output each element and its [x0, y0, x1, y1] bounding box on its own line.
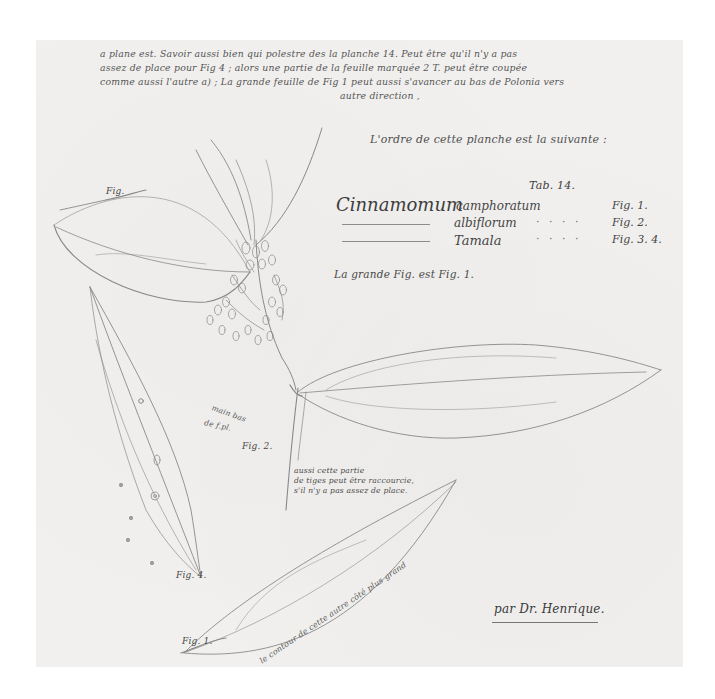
- right-large-leaf-drawing: [298, 344, 661, 438]
- species-figure: Fig. 3. 4.: [612, 233, 662, 246]
- header-note-line: comme aussi l'autre a) ; La grande feuil…: [100, 75, 660, 89]
- species-row: albiflorum · · · · Fig. 2.: [336, 215, 666, 232]
- stem-drawing: [286, 385, 306, 510]
- upright-leaves-drawing: [196, 128, 322, 245]
- species-epithet: Tamala: [454, 233, 501, 248]
- fig-mark-label: Fig.: [106, 186, 125, 196]
- species-genus: Cinnamomum: [336, 194, 463, 215]
- header-note-line: a plane est. Savoir aussi bien qui poles…: [100, 47, 660, 61]
- grande-figure-note: La grande Fig. est Fig. 1.: [334, 268, 474, 280]
- ditto-dash: [342, 224, 430, 225]
- leader-dots: · · · ·: [536, 233, 581, 246]
- stem-cut-note: aussi cette partie de tiges peut être ra…: [294, 466, 414, 496]
- leaf-contour-note: le contour de cette autre côté plus gran…: [258, 560, 408, 665]
- header-note-line: assez de place pour Fig 4 ; alors une pa…: [100, 61, 660, 75]
- species-row: Cinnamomum camphoratum Fig. 1.: [336, 198, 666, 215]
- header-note-last-line: autre direction ,: [100, 89, 660, 103]
- stem-cut-note-line: aussi cette partie: [294, 466, 414, 476]
- flower-cluster-drawing: [207, 240, 296, 390]
- leader-dots: · · · ·: [536, 216, 581, 229]
- species-row: Tamala · · · · Fig. 3. 4.: [336, 232, 666, 249]
- fig4-label: Fig. 4.: [176, 570, 207, 580]
- tab-label: Tab. 14.: [529, 179, 575, 192]
- bottom-leaf-fig1-drawing: [181, 480, 456, 654]
- species-epithet: camphoratum: [456, 199, 541, 213]
- species-epithet: albiflorum: [454, 216, 517, 230]
- species-figure: Fig. 1.: [612, 199, 648, 212]
- species-list: Cinnamomum camphoratum Fig. 1. albifloru…: [336, 198, 666, 249]
- header-note: a plane est. Savoir aussi bien qui poles…: [100, 47, 660, 103]
- narrow-leaf-fig4-drawing: [90, 287, 201, 577]
- manuscript-page: a plane est. Savoir aussi bien qui poles…: [36, 40, 683, 667]
- fig1-label: Fig. 1.: [182, 636, 213, 646]
- botanical-drawing: [36, 40, 683, 667]
- stem-cut-note-line: de tiges peut être raccourcie,: [294, 476, 414, 486]
- signature: par Dr. Henrique.: [494, 602, 605, 616]
- stem-cut-note-line: s'il n'y a pas assez de place.: [294, 486, 414, 496]
- signature-underline: [492, 622, 598, 623]
- fig2-label: Fig. 2.: [242, 441, 273, 451]
- explication-heading: L'ordre de cette planche est la suivante…: [370, 133, 607, 146]
- upper-left-leaf-drawing: [54, 190, 250, 302]
- stem-note-line: main bas: [211, 403, 248, 424]
- ditto-dash: [342, 241, 430, 242]
- stem-note-line: de f.pl.: [203, 418, 232, 433]
- species-figure: Fig. 2.: [612, 216, 648, 229]
